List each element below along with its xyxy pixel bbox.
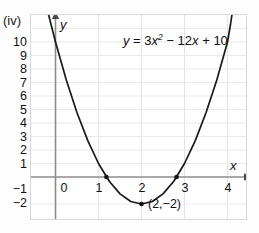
x-tick-2: 2 bbox=[135, 182, 149, 195]
x-tick-3: 3 bbox=[178, 182, 192, 195]
y-tick-5: 5 bbox=[5, 104, 27, 117]
y-tick-1: 1 bbox=[5, 158, 27, 171]
y-tick-minus-2: −2 bbox=[3, 197, 27, 210]
x-tick-0: 0 bbox=[57, 182, 71, 195]
root-point-right bbox=[174, 175, 179, 180]
equation-annotation: y = 3x2 − 12x + 10 bbox=[123, 32, 228, 48]
figure-container: (iv) bbox=[0, 0, 259, 233]
plot-frame: 10 9 8 7 6 5 4 3 2 1 −1 −2 0 1 2 3 4 y x… bbox=[30, 14, 247, 220]
y-tick-4: 4 bbox=[5, 117, 27, 130]
y-tick-10: 10 bbox=[5, 36, 27, 49]
y-tick-3: 3 bbox=[5, 131, 27, 144]
y-tick-6: 6 bbox=[5, 90, 27, 103]
x-axis bbox=[31, 173, 246, 181]
part-label: (iv) bbox=[3, 13, 21, 28]
y-tick-8: 8 bbox=[5, 63, 27, 76]
y-tick-7: 7 bbox=[5, 77, 27, 90]
vertex-point bbox=[139, 202, 144, 207]
x-tick-1: 1 bbox=[92, 182, 106, 195]
x-tick-4: 4 bbox=[221, 182, 235, 195]
root-point-left bbox=[104, 175, 109, 180]
equation-eq: = 3 bbox=[130, 33, 152, 48]
vertex-label: (2,−2) bbox=[148, 197, 181, 211]
y-tick-2: 2 bbox=[5, 144, 27, 157]
y-tick-minus-1: −1 bbox=[3, 183, 27, 196]
equation-mid: − 12 bbox=[163, 33, 192, 48]
x-axis-name: x bbox=[230, 158, 237, 173]
y-tick-9: 9 bbox=[5, 50, 27, 63]
equation-tail: + 10 bbox=[199, 33, 228, 48]
y-axis-name: y bbox=[60, 17, 67, 32]
